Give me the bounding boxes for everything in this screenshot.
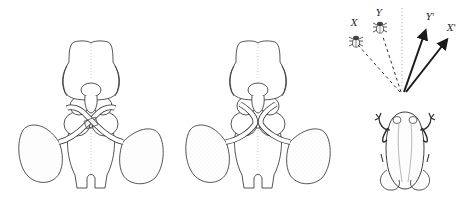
sightline-y	[383, 37, 401, 92]
brain-panel-crossed	[19, 41, 163, 188]
label-x-prime: X'	[446, 23, 456, 33]
label-x: X	[350, 18, 358, 28]
label-y-prime: Y'	[426, 12, 434, 22]
label-y: Y	[376, 8, 383, 18]
left-eye	[186, 125, 230, 182]
brain-panel-rerouted	[186, 41, 330, 188]
right-eye	[287, 129, 331, 184]
frog-illustration	[375, 112, 435, 190]
figure-canvas: X Y Y' X'	[0, 0, 468, 201]
optic-chiasm	[256, 119, 260, 127]
targeting-panel: X Y Y' X'	[349, 8, 456, 190]
insect-y-icon	[373, 22, 387, 33]
left-eye	[19, 125, 63, 182]
right-eye	[120, 129, 164, 184]
insect-x-icon	[349, 36, 363, 47]
frog-body	[386, 112, 424, 189]
strike-arrow-y-prime	[404, 32, 425, 92]
